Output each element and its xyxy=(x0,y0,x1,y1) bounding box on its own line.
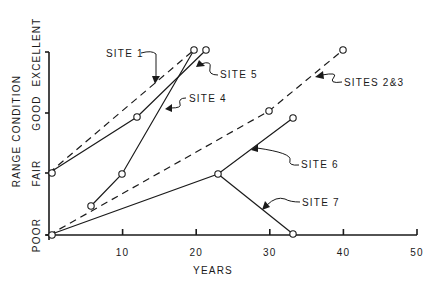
x-tick-20: 20 xyxy=(189,247,203,258)
y-tick-excellent: EXCELLENT xyxy=(31,17,42,86)
arrow-icon xyxy=(165,104,172,112)
label-site-4: SITE 4 xyxy=(189,93,227,104)
label-sites-2-3: SITES 2&3 xyxy=(344,77,404,88)
series-site-5 xyxy=(49,50,206,173)
label-site-7: SITE 7 xyxy=(302,197,340,208)
y-axis-label: RANGE CONDITION xyxy=(11,75,22,187)
x-axis-label: YEARS xyxy=(193,265,233,276)
y-tick-good: GOOD xyxy=(31,95,42,130)
arrow-icon xyxy=(262,201,270,210)
x-tick-50: 50 xyxy=(410,247,424,258)
range-condition-chart: 10 20 30 40 50 YEARS POOR FAIR GOOD EXCE… xyxy=(0,0,434,286)
label-site-5: SITE 5 xyxy=(220,69,258,80)
annotation-arrowheads xyxy=(152,60,324,210)
x-tick-40: 40 xyxy=(337,247,351,258)
series-site-4 xyxy=(91,50,194,206)
series-site-6 xyxy=(49,118,293,235)
y-tick-fair: FAIR xyxy=(31,159,42,186)
y-tick-poor: POOR xyxy=(31,218,42,252)
series-site-7 xyxy=(218,174,293,234)
series-site-1 xyxy=(49,50,194,173)
label-site-6: SITE 6 xyxy=(301,159,339,170)
label-site-1: SITE 1 xyxy=(106,48,144,59)
x-tick-10: 10 xyxy=(116,247,130,258)
x-tick-30: 30 xyxy=(263,247,277,258)
arrow-icon xyxy=(152,76,160,84)
